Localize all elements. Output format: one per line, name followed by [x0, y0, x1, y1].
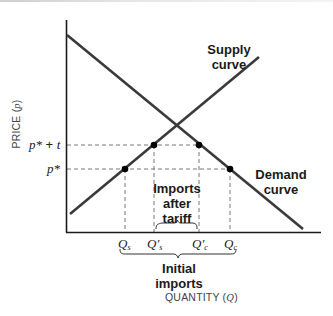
x-axis-title: QUANTITY (Q)	[165, 291, 238, 303]
tick-qc-sub: c	[233, 243, 237, 252]
tick-qs: Qs	[118, 236, 131, 252]
imports-after-tariff-line1: Imports	[152, 181, 202, 196]
tariff-price-op: +	[42, 137, 57, 152]
tick-qsp-sub: s	[159, 243, 162, 252]
initial-imports-line1: Initial	[153, 261, 205, 276]
world-price-base: p*	[47, 161, 60, 176]
tariff-price-base: p*	[29, 137, 42, 152]
brace-initial-imports	[120, 249, 236, 258]
tick-qc: Qc	[224, 236, 237, 252]
imports-after-tariff-line2: after	[152, 196, 202, 211]
y-axis-symbol: p	[11, 103, 22, 108]
tick-qc-sym: Q	[224, 236, 233, 251]
initial-imports-label: Initial imports	[153, 261, 205, 291]
point-qs	[122, 166, 129, 173]
imports-after-tariff-label: Imports after tariff	[152, 181, 202, 226]
demand-label-line2: curve	[253, 182, 309, 197]
x-axis-symbol: Q	[226, 292, 234, 303]
supply-label-line1: Supply	[204, 42, 254, 57]
tick-qs-prime: Q′s	[147, 236, 162, 252]
world-price-label: p*	[47, 161, 60, 177]
y-axis-title-text: PRICE	[10, 115, 22, 148]
supply-label-line2: curve	[204, 57, 254, 72]
tick-qcp-sub: c	[204, 243, 208, 252]
guide-lines	[67, 145, 230, 232]
tick-qcp-sym: Q	[192, 236, 201, 251]
y-axis-title: PRICE (p)	[10, 94, 22, 154]
initial-imports-line2: imports	[153, 276, 205, 291]
supply-curve-label: Supply curve	[204, 42, 254, 72]
point-qs-prime	[151, 142, 158, 149]
x-axis-title-text: QUANTITY	[165, 291, 220, 303]
tick-qc-prime: Q′c	[192, 236, 208, 252]
imports-after-tariff-line3: tariff	[152, 211, 202, 226]
point-qc-prime	[196, 142, 203, 149]
demand-label-line1: Demand	[253, 167, 309, 182]
tick-qs-sym: Q	[118, 236, 127, 251]
demand-curve-label: Demand curve	[253, 167, 309, 197]
point-qc	[227, 166, 234, 173]
tariff-price-label: p* + t	[29, 137, 60, 153]
tick-qs-sub: s	[127, 243, 130, 252]
tick-qsp-sym: Q	[147, 236, 156, 251]
tariff-price-var: t	[57, 137, 61, 152]
